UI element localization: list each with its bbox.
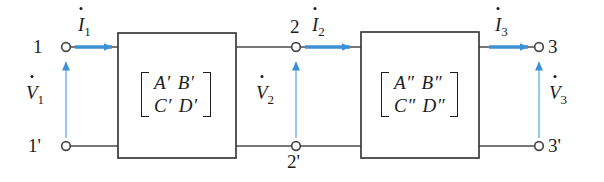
voltage-arrows-group <box>66 62 539 138</box>
voltage-label-v3-symbol: V <box>549 82 561 103</box>
matrix-2-A: A″ <box>394 72 415 94</box>
voltage-label-v1-symbol: V <box>26 82 38 103</box>
voltage-label-v1: V1 <box>26 83 44 106</box>
two-port-cascade-diagram: 1 1' 2 2' 3 3' I1 I2 I3 V1 V2 V3 A′ B′ C… <box>0 0 604 182</box>
network-1-matrix: A′ B′ C′ D′ <box>141 72 211 117</box>
matrix-2-C: C″ <box>394 95 416 117</box>
terminal-node-3[interactable] <box>535 43 544 52</box>
terminal-label-1: 1 <box>33 37 43 56</box>
terminal-node-2p[interactable] <box>292 142 301 151</box>
voltage-label-v1-subscript: 1 <box>38 92 45 107</box>
terminal-node-1p[interactable] <box>62 142 71 151</box>
current-label-i1: I1 <box>78 15 91 38</box>
terminal-label-1-prime: 1' <box>28 136 41 155</box>
current-label-i3-subscript: 3 <box>501 24 508 39</box>
voltage-label-v2: V2 <box>256 83 274 106</box>
voltage-label-v3-subscript: 3 <box>561 92 568 107</box>
terminal-node-3p[interactable] <box>535 142 544 151</box>
current-label-i1-subscript: 1 <box>84 24 91 39</box>
terminal-label-3-prime: 3' <box>548 136 561 155</box>
matrix-2-left-bracket <box>381 72 389 117</box>
current-label-i3: I3 <box>495 15 508 38</box>
matrix-1-B: B′ <box>178 72 195 94</box>
matrix-2-D: D″ <box>423 95 446 117</box>
current-label-i1-symbol: I <box>78 14 84 35</box>
matrix-1-C: C′ <box>154 95 172 117</box>
terminal-label-2: 2 <box>290 17 300 36</box>
voltage-label-v3: V3 <box>549 83 567 106</box>
matrix-1-left-bracket <box>141 72 149 117</box>
matrix-2-B: B″ <box>422 72 443 94</box>
matrix-1-A: A′ <box>154 72 171 94</box>
terminal-nodes-group <box>62 43 544 151</box>
terminal-label-2-prime: 2' <box>287 152 300 171</box>
voltage-label-v2-symbol: V <box>256 82 268 103</box>
current-label-i2-symbol: I <box>312 14 318 35</box>
voltage-label-v2-subscript: 2 <box>268 92 275 107</box>
matrix-1-D: D′ <box>179 95 198 117</box>
terminal-node-2[interactable] <box>292 43 301 52</box>
network-2-matrix: A″ B″ C″ D″ <box>381 72 458 117</box>
current-label-i3-symbol: I <box>495 14 501 35</box>
matrix-1-right-bracket <box>203 72 211 117</box>
current-label-i2: I2 <box>312 15 325 38</box>
matrix-2-right-bracket <box>450 72 458 117</box>
current-label-i2-subscript: 2 <box>318 24 325 39</box>
terminal-node-1[interactable] <box>62 43 71 52</box>
terminal-label-3: 3 <box>548 37 558 56</box>
